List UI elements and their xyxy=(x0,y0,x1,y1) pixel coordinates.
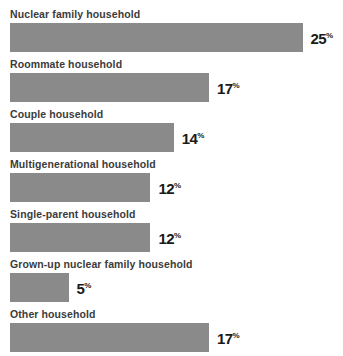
chart-row: Multigenerational household 12% xyxy=(0,158,343,208)
bar-category-label: Multigenerational household xyxy=(10,158,156,171)
chart-row: Couple household 14% xyxy=(0,108,343,158)
chart-row: Nuclear family household 25% xyxy=(0,8,343,58)
bar-category-label: Nuclear family household xyxy=(10,8,140,21)
bar-value-number: 14 xyxy=(182,129,198,146)
bar-track: 17% xyxy=(10,323,343,352)
percent-symbol: % xyxy=(174,230,181,239)
bar-fill xyxy=(10,123,174,152)
bar-value-label: 25% xyxy=(311,29,334,46)
bar-category-label: Roommate household xyxy=(10,58,122,71)
percent-symbol: % xyxy=(326,30,333,39)
bar-category-label: Couple household xyxy=(10,108,103,121)
bar-fill xyxy=(10,23,303,52)
bar-fill xyxy=(10,323,209,352)
bar-value-number: 12 xyxy=(158,179,174,196)
bar-value-label: 17% xyxy=(217,79,240,96)
bar-fill xyxy=(10,73,209,102)
bar-fill xyxy=(10,223,150,252)
bar-category-label: Other household xyxy=(10,308,96,321)
bar-track: 12% xyxy=(10,223,343,252)
percent-symbol: % xyxy=(84,280,91,289)
chart-row: Other household 17% xyxy=(0,308,343,356)
percent-symbol: % xyxy=(232,330,239,339)
bar-category-label: Grown-up nuclear family household xyxy=(10,258,193,271)
chart-row: Single-parent household 12% xyxy=(0,208,343,258)
bar-value-label: 12% xyxy=(158,229,181,246)
bar-value-number: 12 xyxy=(158,229,174,246)
percent-symbol: % xyxy=(197,130,204,139)
bar-value-label: 5% xyxy=(77,279,92,296)
percent-symbol: % xyxy=(174,180,181,189)
bar-fill xyxy=(10,273,69,302)
bar-value-number: 17 xyxy=(217,79,233,96)
bar-value-number: 17 xyxy=(217,329,233,346)
chart-row: Grown-up nuclear family household 5% xyxy=(0,258,343,308)
bar-track: 17% xyxy=(10,73,343,102)
percent-symbol: % xyxy=(232,80,239,89)
bar-value-label: 12% xyxy=(158,179,181,196)
bar-track: 5% xyxy=(10,273,343,302)
bar-fill xyxy=(10,173,150,202)
bar-value-number: 5 xyxy=(77,279,85,296)
bar-value-label: 17% xyxy=(217,329,240,346)
bar-track: 12% xyxy=(10,173,343,202)
bar-value-number: 25 xyxy=(311,29,327,46)
chart-row: Roommate household 17% xyxy=(0,58,343,108)
bar-track: 14% xyxy=(10,123,343,152)
bar-category-label: Single-parent household xyxy=(10,208,136,221)
bar-track: 25% xyxy=(10,23,343,52)
bar-value-label: 14% xyxy=(182,129,205,146)
